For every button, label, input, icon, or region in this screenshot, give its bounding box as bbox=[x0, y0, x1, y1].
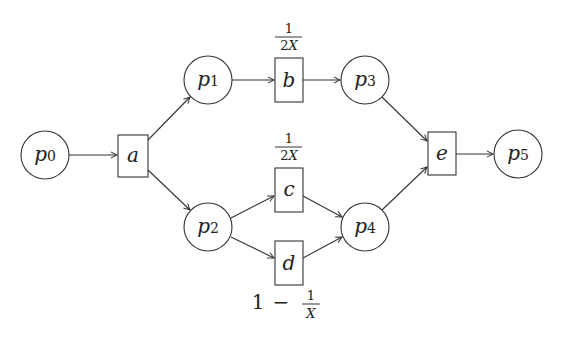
svg-text:2X: 2X bbox=[280, 148, 298, 163]
label-a: a bbox=[127, 143, 139, 167]
petri-net-diagram: p0 p1 p2 p3 p4 p5 a b c d e 1 2X 1 2X 1 … bbox=[0, 0, 570, 338]
label-e: e bbox=[436, 141, 448, 165]
svg-text:1: 1 bbox=[285, 21, 293, 36]
arc-p3-e bbox=[382, 97, 427, 141]
label-d: d bbox=[283, 251, 296, 275]
svg-text:1: 1 bbox=[307, 288, 315, 303]
arc-c-p4 bbox=[303, 196, 342, 217]
label-b: b bbox=[283, 68, 296, 92]
svg-text:X: X bbox=[305, 306, 316, 321]
svg-text:1: 1 bbox=[285, 131, 293, 146]
svg-text:1: 1 bbox=[252, 290, 265, 314]
arc-a-p2 bbox=[148, 170, 190, 210]
rate-c: 1 2X bbox=[275, 131, 302, 163]
arc-p4-e bbox=[382, 167, 427, 210]
arc-p2-d bbox=[231, 237, 274, 258]
arc-p2-c bbox=[231, 196, 274, 218]
svg-text:2X: 2X bbox=[280, 38, 298, 53]
rate-b: 1 2X bbox=[275, 21, 302, 53]
arc-d-p4 bbox=[303, 237, 342, 258]
arc-a-p1 bbox=[148, 97, 190, 140]
label-c: c bbox=[283, 177, 294, 201]
svg-text:−: − bbox=[273, 290, 290, 314]
rate-d: 1 − 1 X bbox=[252, 288, 320, 321]
